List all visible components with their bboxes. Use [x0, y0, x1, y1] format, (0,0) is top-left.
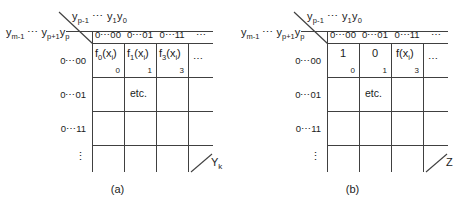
axis-label-a: Yk — [211, 156, 222, 171]
row-group-sub-2: p+1 — [47, 32, 60, 41]
col-group-sub-3-b: 0 — [358, 16, 362, 25]
cell-r0c0-index-a: 0 — [116, 66, 120, 75]
cell-r0c1-index-a: 1 — [148, 66, 152, 75]
cell-r0c1-b: 0 1 — [362, 47, 390, 75]
row-group-ellipsis: ⋯ — [27, 26, 38, 38]
cell-r1c1-etc-b: etc. — [365, 87, 382, 99]
cell-r0c2-index-b: 3 — [415, 66, 419, 75]
grid-hline-0-a — [92, 43, 213, 44]
cell-r0c0-b: 1 0 — [330, 47, 358, 75]
grid-hline-3-b — [327, 145, 448, 146]
cell-r0c0-value-b: 1 — [340, 47, 346, 59]
panel-b: yp-1 ⋯ y1y0 ym-1 ⋯ yp+1yp 0⋯00 0⋯01 0⋯11… — [235, 0, 470, 210]
axis-label-b: Z — [446, 156, 453, 171]
row-group-sub-1-b: m-1 — [247, 32, 260, 41]
grid-hline-top-a — [66, 31, 213, 32]
column-group-label-a: yp-1 ⋯ y1y0 — [72, 10, 127, 25]
row-group-ellipsis-b: ⋯ — [262, 26, 273, 38]
cell-r0c1-value-a: f1(xi) — [127, 47, 149, 62]
row-header-2-a: 0⋯11 — [14, 123, 86, 134]
grid-hline-2-b — [327, 111, 448, 112]
cell-r0c3-b: ⋯ — [428, 53, 439, 64]
caption-a: (a) — [0, 183, 235, 195]
cell-r0c0-value-a: f0(xi) — [95, 47, 117, 62]
axis-label-text-b: Z — [446, 156, 453, 168]
cell-r0c1-value-b: 0 — [372, 47, 378, 59]
cell-r0c0-index-b: 0 — [351, 66, 355, 75]
grid-vline-0-b — [327, 31, 328, 172]
col-group-sub-1: p-1 — [78, 16, 89, 25]
grid-vline-3-b — [423, 43, 424, 172]
grid-hline-1-b — [327, 77, 448, 78]
grid-vline-0-a — [92, 31, 93, 172]
grid-hline-top-b — [301, 31, 448, 32]
cell-r0c1-index-b: 1 — [383, 66, 387, 75]
grid-vline-3-a — [188, 43, 189, 172]
row-header-0-a: 0⋯00 — [14, 55, 86, 66]
grid-vline-1-a — [124, 43, 125, 172]
grid-vline-1-b — [359, 43, 360, 172]
axis-label-sub-a: k — [218, 162, 222, 171]
col-group-sub-1-b: p-1 — [313, 16, 324, 25]
cell-r0c2-b: f(xi) 3 — [394, 47, 422, 75]
row-group-sub-3: p — [65, 32, 69, 41]
cell-r0c0-a: f0(xi) 0 — [95, 47, 123, 75]
col-group-sub-3: 0 — [123, 16, 127, 25]
cell-r0c2-a: f3(xi) 3 — [159, 47, 187, 75]
row-group-label-b: ym-1 ⋯ yp+1yp — [241, 26, 304, 41]
cell-r0c3-a: ⋯ — [193, 53, 204, 64]
column-group-label-b: yp-1 ⋯ y1y0 — [307, 10, 362, 25]
col-group-ellipsis-b: ⋯ — [327, 10, 338, 22]
row-header-1-a: 0⋯01 — [14, 89, 86, 100]
row-group-sub-3-b: p — [300, 32, 304, 41]
cell-r0c2-value-a: f3(xi) — [159, 47, 181, 62]
grid-hline-3-a — [92, 145, 213, 146]
cell-r0c2-index-a: 3 — [180, 66, 184, 75]
row-group-sub-1: m-1 — [12, 32, 25, 41]
row-header-0-b: 0⋯00 — [249, 55, 321, 66]
col-group-ellipsis: ⋯ — [92, 10, 103, 22]
grid-hline-0-b — [327, 43, 448, 44]
row-header-1-b: 0⋯01 — [249, 89, 321, 100]
cell-r0c1-a: f1(xi) 1 — [127, 47, 155, 75]
row-group-label-a: ym-1 ⋯ yp+1yp — [6, 26, 69, 41]
grid-hline-2-a — [92, 111, 213, 112]
row-header-3-b: ⋮ — [249, 152, 321, 161]
row-header-2-b: 0⋯11 — [249, 123, 321, 134]
cell-r1c1-etc-a: etc. — [130, 87, 147, 99]
row-group-sub-2-b: p+1 — [282, 32, 295, 41]
grid-hline-1-a — [92, 77, 213, 78]
panel-a: yp-1 ⋯ y1y0 ym-1 ⋯ yp+1yp 0⋯00 0⋯01 0⋯11… — [0, 0, 235, 210]
grid-vline-2-b — [391, 43, 392, 172]
row-header-3-a: ⋮ — [14, 152, 86, 161]
caption-b: (b) — [235, 183, 470, 195]
grid-vline-2-a — [156, 43, 157, 172]
cell-r0c2-value-b: f(xi) — [396, 47, 414, 62]
